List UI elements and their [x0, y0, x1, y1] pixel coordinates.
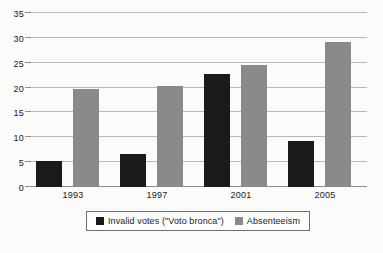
x-axis: 1993199720012005 [31, 190, 367, 204]
bar-group-2005 [283, 13, 367, 187]
bars-layer [31, 13, 367, 187]
legend-label-1: Invalid votes ("Voto bronca") [108, 216, 224, 226]
bar-chart-figure: 05101520253035 1993199720012005 Invalid … [0, 0, 383, 253]
bar-group-1997 [115, 13, 199, 187]
x-tick-label-2005: 2005 [288, 190, 362, 200]
y-tick-label-15: 15 [2, 108, 24, 118]
legend-item-2: Absenteeism [235, 216, 300, 226]
bar-1993-series-2 [73, 89, 99, 187]
y-tick-label-0: 0 [2, 183, 24, 193]
bar-group-2001 [199, 13, 283, 187]
x-tick-label-1997: 1997 [120, 190, 194, 200]
legend-item-1: Invalid votes ("Voto bronca") [96, 216, 224, 226]
y-tick-label-35: 35 [2, 9, 24, 19]
bar-2001-series-2 [241, 65, 267, 187]
legend-swatch-icon-1 [96, 217, 104, 225]
x-tick-label-1993: 1993 [36, 190, 110, 200]
plot-area [31, 13, 367, 187]
bar-2005-series-1 [288, 141, 314, 187]
legend-label-2: Absenteeism [247, 216, 300, 226]
bar-2001-series-1 [204, 74, 230, 187]
x-tick-label-2001: 2001 [204, 190, 278, 200]
chart-legend: Invalid votes ("Voto bronca")Absenteeism [86, 211, 310, 231]
y-tick-label-25: 25 [2, 59, 24, 69]
bar-1997-series-1 [120, 154, 146, 187]
bar-group-1993 [31, 13, 115, 187]
y-tick-label-20: 20 [2, 84, 24, 94]
bar-2005-series-2 [325, 42, 351, 187]
legend-swatch-icon-2 [235, 217, 243, 225]
y-tick-label-10: 10 [2, 133, 24, 143]
y-tick-label-5: 5 [2, 158, 24, 168]
y-tick-label-30: 30 [2, 34, 24, 44]
bar-1997-series-2 [157, 86, 183, 187]
bar-1993-series-1 [36, 161, 62, 187]
